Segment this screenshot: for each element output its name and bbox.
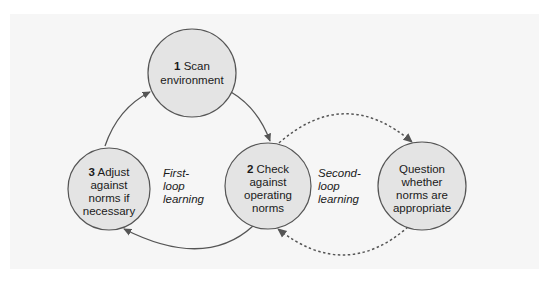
- edge-adjust-to-scan: [105, 92, 150, 146]
- node-label: environment: [160, 74, 224, 86]
- svg-text:learning: learning: [163, 193, 205, 205]
- first-loop-learning-label: First- loop learning: [163, 167, 205, 205]
- svg-text:Second-: Second-: [318, 167, 361, 179]
- edge-scan-to-check: [231, 92, 270, 141]
- edge-check-to-question-dashed: [279, 114, 412, 143]
- learning-loop-diagram: 1 Scan environment 2 Check against opera…: [0, 0, 539, 282]
- node-label: norms are: [396, 189, 448, 201]
- svg-text:First-: First-: [163, 167, 189, 179]
- node-label: whether: [401, 176, 443, 188]
- node-adjust-against-norms: 3 Adjust against norms if necessary: [68, 148, 150, 230]
- node-label: necessary: [83, 205, 136, 217]
- node-label: against: [249, 176, 287, 188]
- node-question-norms: Question whether norms are appropriate: [378, 142, 466, 230]
- node-label: against: [90, 179, 128, 191]
- node-label: Question: [399, 163, 445, 175]
- svg-text:loop: loop: [163, 180, 185, 192]
- svg-text:learning: learning: [318, 193, 360, 205]
- node-label: 3 Adjust: [89, 166, 131, 178]
- node-label: norms if: [89, 192, 131, 204]
- second-loop-learning-label: Second- loop learning: [318, 167, 361, 205]
- node-label: appropriate: [393, 202, 451, 214]
- svg-text:loop: loop: [318, 180, 340, 192]
- node-scan-environment: 1 Scan environment: [148, 29, 236, 117]
- node-circle: [148, 29, 236, 117]
- edge-check-to-adjust: [124, 226, 253, 249]
- node-label: operating: [244, 189, 292, 201]
- node-check-against-norms: 2 Check against operating norms: [225, 143, 311, 229]
- node-label: 2 Check: [247, 163, 289, 175]
- node-label: norms: [252, 202, 284, 214]
- edge-question-to-check-dashed: [278, 227, 408, 255]
- node-label: 1 Scan: [174, 60, 210, 72]
